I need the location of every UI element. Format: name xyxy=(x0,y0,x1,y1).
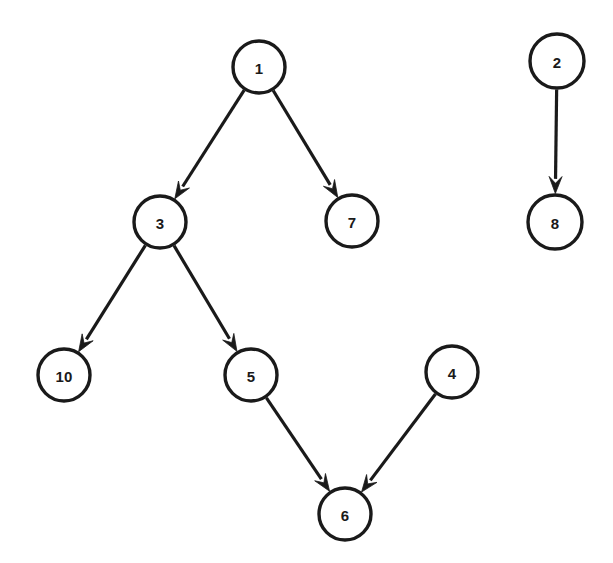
node-label: 3 xyxy=(156,215,165,232)
node-label: 5 xyxy=(247,368,256,385)
graph-node-6[interactable]: 6 xyxy=(319,488,371,540)
node-label: 4 xyxy=(448,365,457,382)
edge-line xyxy=(370,394,435,480)
node-label: 10 xyxy=(55,368,72,385)
node-label: 7 xyxy=(348,214,357,231)
graph-node-1[interactable]: 1 xyxy=(233,41,285,93)
graph-edge xyxy=(175,90,244,199)
edge-arrowhead xyxy=(323,180,337,198)
graph-edge xyxy=(362,394,436,492)
graph-edge xyxy=(174,246,237,352)
node-label: 8 xyxy=(551,215,560,232)
graph-edge xyxy=(549,89,562,193)
edge-line xyxy=(183,90,245,186)
graph-svg: 1371054628 xyxy=(0,0,613,563)
graph-node-5[interactable]: 5 xyxy=(225,349,277,401)
graph-node-8[interactable]: 8 xyxy=(528,195,582,249)
graph-diagram-canvas: 1371054628 xyxy=(0,0,613,563)
edge-arrowhead xyxy=(223,333,237,351)
graph-node-3[interactable]: 3 xyxy=(134,196,186,248)
edge-line xyxy=(273,91,330,185)
edge-line xyxy=(174,246,229,339)
graph-node-4[interactable]: 4 xyxy=(426,346,478,398)
graph-node-2[interactable]: 2 xyxy=(530,34,584,88)
graph-edge xyxy=(266,398,329,491)
edge-line xyxy=(556,89,557,178)
graph-edge xyxy=(273,91,338,198)
edge-arrowhead xyxy=(79,334,94,352)
edge-line xyxy=(86,245,145,339)
graph-node-10[interactable]: 10 xyxy=(38,349,90,401)
node-label: 6 xyxy=(341,507,350,524)
edge-arrowhead xyxy=(315,474,330,492)
node-label: 2 xyxy=(553,54,562,71)
edge-line xyxy=(266,398,321,479)
edge-arrowhead xyxy=(175,181,190,199)
edge-arrowhead xyxy=(549,176,562,193)
graph-edge xyxy=(79,245,146,351)
edges-layer xyxy=(79,89,562,492)
graph-node-7[interactable]: 7 xyxy=(326,195,378,247)
node-label: 1 xyxy=(255,60,264,77)
